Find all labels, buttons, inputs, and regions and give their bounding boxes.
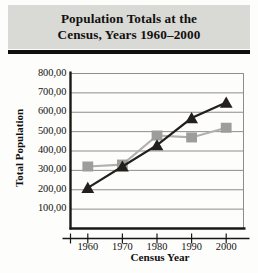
data-point-square: [82, 162, 93, 172]
axis-frame: [63, 72, 250, 239]
population-chart-figure: Population Totals at the Census, Years 1…: [0, 0, 258, 273]
data-point-square: [152, 131, 163, 141]
x-axis-tick-label: 2000: [206, 241, 246, 252]
y-axis-tick-label: 200,00: [38, 183, 67, 194]
plot-svg: [0, 0, 258, 273]
data-point-triangle: [185, 112, 198, 123]
data-point-square: [221, 123, 232, 133]
y-axis-tick-label: 700,00: [38, 86, 67, 97]
y-axis-tick-label: 400,00: [38, 144, 67, 155]
data-point-triangle: [81, 182, 94, 193]
y-axis-tick-label: 500,00: [38, 125, 67, 136]
data-series: [81, 97, 232, 193]
y-axis-tick-label: 600,00: [38, 105, 67, 116]
y-axis-tick-label: 100,00: [38, 202, 67, 213]
data-point-triangle: [220, 97, 233, 108]
plot-area: 100,00200,00300,00400,00500,00600,00700,…: [0, 0, 258, 273]
data-point-square: [186, 132, 197, 142]
y-axis-tick-label: 800,00: [38, 67, 67, 78]
y-axis-tick-label: 300,00: [38, 163, 67, 174]
